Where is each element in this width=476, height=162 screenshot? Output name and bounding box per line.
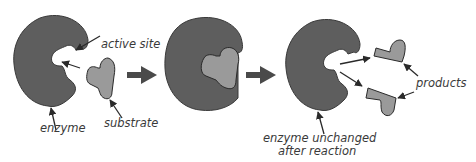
product-2 [366, 88, 396, 116]
diagram-canvas: active site substrate enzyme [0, 0, 476, 162]
products-pointer-2 [398, 92, 414, 98]
enzyme-shape-1 [14, 15, 88, 106]
binding-direction-arrow [62, 62, 80, 68]
label-active-site: active site [101, 37, 160, 51]
product-release-arrow-2 [340, 72, 362, 86]
label-products: products [415, 76, 466, 90]
product-1 [374, 40, 405, 62]
reaction-arrow-1 [127, 66, 157, 84]
reaction-arrow-2 [246, 66, 276, 84]
label-enzyme: enzyme [40, 121, 85, 135]
substrate-shape [87, 58, 115, 99]
enzyme-substrate-complex [165, 17, 243, 110]
enzyme-shape-3 [286, 19, 360, 110]
products-pointer-1 [404, 64, 418, 76]
enzyme-reaction-diagram: active site substrate enzyme [0, 0, 476, 162]
label-enzyme-unchanged: enzyme unchanged [263, 131, 377, 145]
label-after-reaction: after reaction [278, 144, 356, 158]
label-substrate: substrate [104, 116, 158, 130]
product-release-arrow-1 [340, 58, 370, 64]
